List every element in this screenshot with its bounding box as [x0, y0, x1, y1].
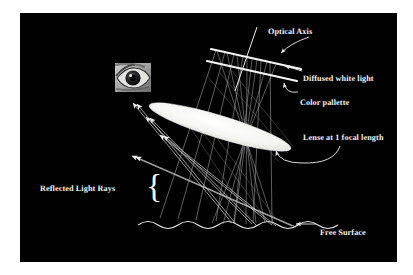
color-pallette-line	[207, 61, 297, 81]
label-optical-axis: Optical Axis	[268, 28, 312, 36]
label-free-surface: Free Surface	[320, 229, 366, 237]
curly-brace-glyph: {	[146, 169, 162, 203]
wavy-free-surface-line	[138, 222, 338, 229]
label-diffused-white-light: Diffused white light	[303, 75, 374, 83]
label-reflected-light-rays: Reflected Light Rays	[40, 185, 115, 193]
leader-optical-axis	[281, 37, 309, 53]
leader-color-pallette	[284, 83, 298, 92]
convex-lens	[146, 95, 294, 160]
diagram-panel: Optical Axis Diffused white light Color …	[20, 13, 397, 262]
eye-photo	[115, 63, 151, 92]
eye-photo-image	[115, 63, 151, 92]
label-color-pallette: Color pallette	[300, 99, 349, 107]
label-lense-focal-length: Lense at 1 focal length	[303, 134, 384, 142]
figure-root: Optical Axis Diffused white light Color …	[0, 0, 413, 275]
